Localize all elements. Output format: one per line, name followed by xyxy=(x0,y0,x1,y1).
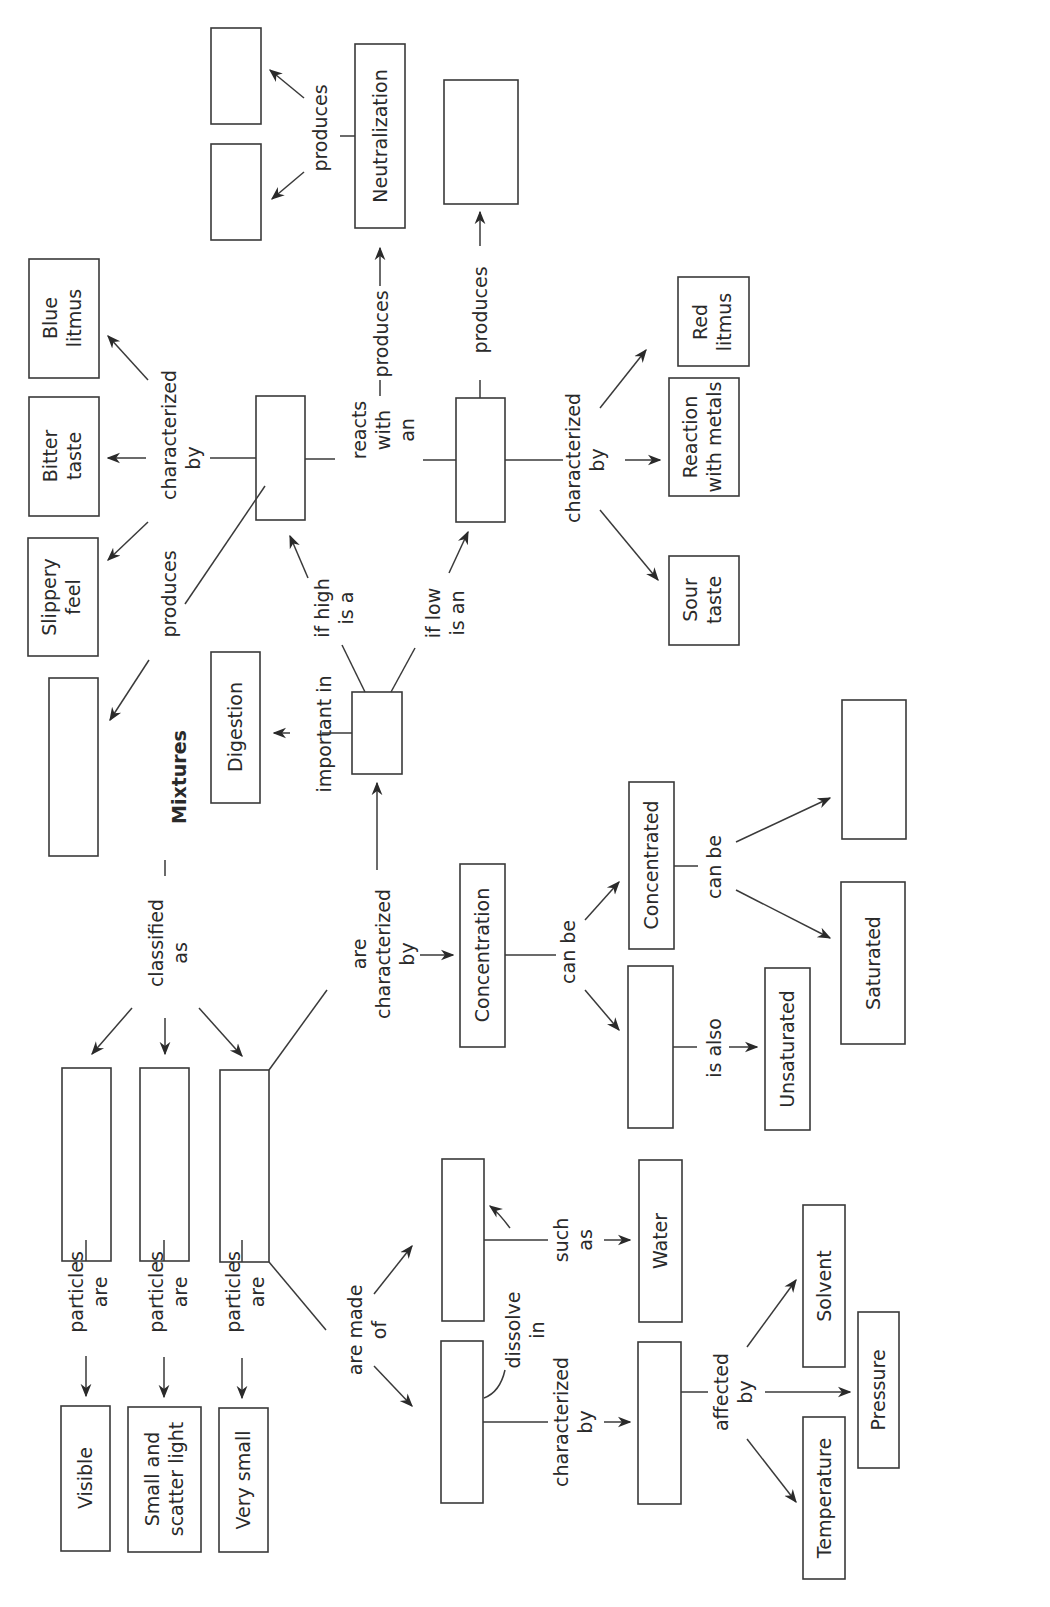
label-red-litmus-1: Red xyxy=(689,304,711,340)
link-such-as-2: as xyxy=(574,1229,596,1251)
link-produces-base: produces xyxy=(370,290,392,377)
link-particles-3a: particles xyxy=(222,1251,244,1333)
link-particles-2b: are xyxy=(169,1277,191,1308)
link-if-low-2: is an xyxy=(446,591,468,636)
node-solute[interactable] xyxy=(441,1341,483,1503)
label-pressure: Pressure xyxy=(867,1349,889,1430)
link-char-acid-2: by xyxy=(586,448,608,471)
link-is-also: is also xyxy=(703,1018,725,1078)
node-solubility[interactable] xyxy=(638,1342,681,1504)
link-classified-1: classified xyxy=(145,899,167,987)
link-particles-2a: particles xyxy=(145,1251,167,1333)
link-such-as-1: such xyxy=(550,1218,572,1262)
link-particles-3b: are xyxy=(246,1277,268,1308)
link-if-high-2: is a xyxy=(335,592,357,625)
node-acid-product[interactable] xyxy=(444,80,518,204)
node-ph[interactable] xyxy=(352,692,402,774)
label-blue-litmus-1: Blue xyxy=(39,297,61,339)
link-are-char-2: characterized xyxy=(372,889,394,1019)
link-dissolve-1: dissolve xyxy=(502,1292,524,1369)
link-are-made-of-2: of xyxy=(368,1320,390,1340)
link-char-base-1: characterized xyxy=(158,370,180,500)
label-unsaturated: Unsaturated xyxy=(776,990,798,1108)
node-neutralization-product-2[interactable] xyxy=(211,144,261,240)
label-bitter-2: taste xyxy=(63,432,85,480)
link-reacts-3: an xyxy=(396,418,418,442)
label-sour-2: taste xyxy=(703,576,725,624)
label-slippery-2: feel xyxy=(62,579,84,614)
link-char-solute-2: by xyxy=(574,1410,596,1433)
label-blue-litmus-2: litmus xyxy=(63,289,85,347)
label-solvent: Solvent xyxy=(813,1250,835,1321)
node-acid[interactable] xyxy=(456,398,505,522)
link-particles-1a: particles xyxy=(65,1251,87,1333)
link-char-base-2: by xyxy=(182,446,204,469)
label-metals-1: Reaction xyxy=(679,396,701,479)
node-mixture-type-1[interactable] xyxy=(62,1068,111,1261)
node-mixture-type-2[interactable] xyxy=(140,1068,189,1261)
label-saturated: Saturated xyxy=(862,916,884,1010)
label-concentrated: Concentrated xyxy=(640,800,662,929)
label-red-litmus-2: litmus xyxy=(713,293,735,351)
page-title: Mixtures xyxy=(168,730,190,824)
link-produces-salt: produces xyxy=(158,550,180,637)
link-char-solute-1: characterized xyxy=(550,1357,572,1487)
link-important-in: important in xyxy=(313,675,335,792)
link-can-be-2: can be xyxy=(703,835,725,899)
label-small-scatter-1: Small and xyxy=(141,1432,163,1527)
label-concentration: Concentration xyxy=(471,888,493,1022)
node-salt[interactable] xyxy=(49,678,98,856)
node-solvent-generic[interactable] xyxy=(442,1159,484,1321)
link-reacts-2: with xyxy=(372,410,394,450)
label-digestion: Digestion xyxy=(224,682,246,772)
link-if-low-1: if low xyxy=(422,588,444,638)
label-bitter-1: Bitter xyxy=(39,429,61,482)
label-sour-1: Sour xyxy=(679,578,701,622)
link-char-acid-1: characterized xyxy=(562,393,584,523)
link-classified-2: as xyxy=(169,942,191,964)
link-particles-1b: are xyxy=(89,1277,111,1308)
label-neutralization: Neutralization xyxy=(369,69,391,202)
label-small-scatter-2: scatter light xyxy=(165,1422,187,1537)
link-produces-acid: produces xyxy=(469,266,491,353)
node-base[interactable] xyxy=(256,396,305,520)
concept-map: Neutralization Blue litmus Bitter taste … xyxy=(0,0,1050,1607)
label-slippery-1: Slippery xyxy=(38,558,60,635)
node-neutralization-product-1[interactable] xyxy=(211,28,261,124)
link-can-be-1: can be xyxy=(557,920,579,984)
node-supersaturated[interactable] xyxy=(842,700,906,839)
link-dissolve-2: in xyxy=(526,1321,548,1338)
label-metals-2: with metals xyxy=(703,382,725,493)
link-if-high-1: if high xyxy=(311,578,333,637)
link-affected-2: by xyxy=(734,1380,756,1403)
label-visible: Visible xyxy=(74,1447,96,1509)
link-produces-neutral: produces xyxy=(309,84,331,171)
node-dilute[interactable] xyxy=(628,966,673,1128)
label-very-small: Very small xyxy=(232,1431,254,1530)
node-mixture-type-3[interactable] xyxy=(220,1070,269,1262)
link-reacts-1: reacts xyxy=(348,401,370,460)
link-are-char-3: by xyxy=(396,942,418,965)
link-are-char-1: are xyxy=(348,939,370,970)
link-affected-1: affected xyxy=(710,1353,732,1431)
label-water: Water xyxy=(649,1213,671,1269)
label-temperature: Temperature xyxy=(813,1438,835,1559)
link-are-made-of-1: are made xyxy=(344,1285,366,1376)
